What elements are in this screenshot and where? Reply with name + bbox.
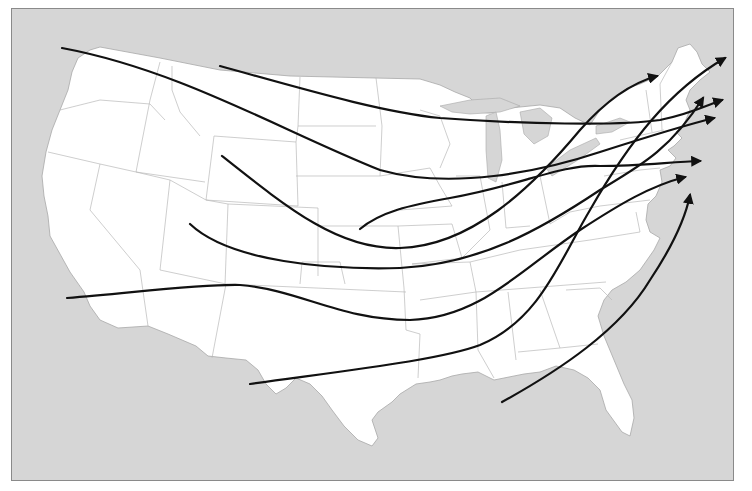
us-landmass [42,44,710,446]
us-storm-track-map [0,0,752,491]
